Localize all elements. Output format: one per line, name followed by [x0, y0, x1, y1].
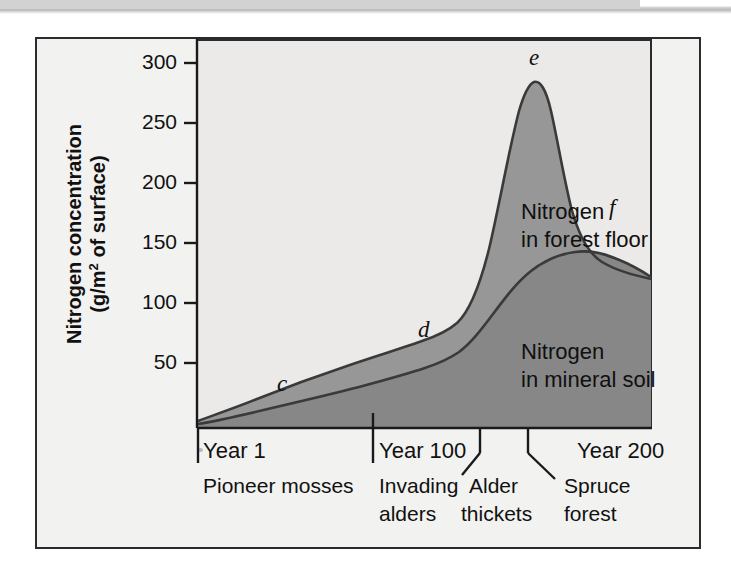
x-tick-label-year-100: Year 100 [379, 438, 466, 463]
figure-page: 300 250 200 150 100 50 Nitrogen concentr… [0, 0, 731, 575]
stage-label-spruce-forest-line1: Spruce [564, 474, 631, 497]
annotation-label-e: e [529, 45, 539, 70]
stage-label-invading-alders-line1: Invading [379, 474, 458, 497]
annotation-label-d: d [418, 317, 430, 342]
y-tick-label-50: 50 [154, 350, 177, 373]
y-axis-title-unit-b: of surface) [87, 155, 109, 263]
y-axis-title-exponent: 2 [86, 263, 101, 270]
stage-label-spruce-forest-line2: forest [564, 502, 617, 525]
x-tick-label-year-200: Year 200 [577, 438, 664, 463]
scan-artifact-band-dark [0, 0, 640, 9]
series-label-forest-floor-line1: Nitrogen [521, 199, 604, 224]
y-axis-title-line2: (g/m2 of surface) [86, 155, 110, 312]
y-tick-label-200: 200 [142, 170, 177, 193]
y-tick-label-150: 150 [142, 230, 177, 253]
series-label-mineral-soil-line2: in mineral soil [521, 367, 656, 392]
series-label-mineral-soil-line1: Nitrogen [521, 339, 604, 364]
stage-label-pioneer-mosses: Pioneer mosses [203, 474, 354, 497]
stage-label-alder-thickets-line2: thickets [461, 502, 532, 525]
figure-frame: 300 250 200 150 100 50 Nitrogen concentr… [35, 37, 701, 549]
nitrogen-succession-area-chart: 300 250 200 150 100 50 Nitrogen concentr… [37, 39, 699, 547]
leader-spruce-forest [528, 453, 555, 479]
series-label-forest-floor-line2: in forest floor [521, 227, 648, 252]
y-axis-title: Nitrogen concentration (g/m2 of surface) [63, 124, 109, 344]
y-tick-label-250: 250 [142, 110, 177, 133]
y-tick-label-300: 300 [142, 50, 177, 73]
y-axis-title-line1: Nitrogen concentration [63, 124, 85, 344]
x-tick-label-year-1: Year 1 [203, 438, 266, 463]
annotation-label-c: c [277, 371, 287, 396]
stage-label-alder-thickets-line1: Alder [469, 474, 518, 497]
stage-label-invading-alders-line2: alders [379, 502, 436, 525]
y-axis-title-unit-a: (g/m [87, 270, 109, 312]
y-tick-label-100: 100 [142, 290, 177, 313]
